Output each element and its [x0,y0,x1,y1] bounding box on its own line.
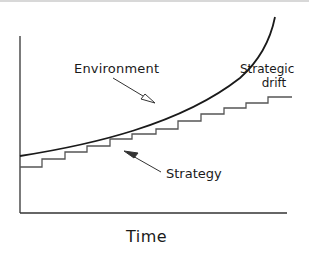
strategy-staircase [20,97,292,167]
strategy-arrowhead-icon [124,151,138,158]
environment-label: Environment [74,61,159,76]
environment-arrow-shaft [113,78,148,99]
strategy-arrow-shaft [131,155,161,172]
x-axis-label: Time [126,227,167,246]
environment-arrowhead-icon [141,94,155,103]
strategic-drift-label: Strategic drift [240,62,294,90]
strategic-drift-line2: drift [240,76,294,90]
strategy-label: Strategy [166,166,222,181]
strategic-drift-line1: Strategic [240,62,294,76]
strategic-drift-diagram [0,0,309,253]
environment-curve [20,17,275,156]
